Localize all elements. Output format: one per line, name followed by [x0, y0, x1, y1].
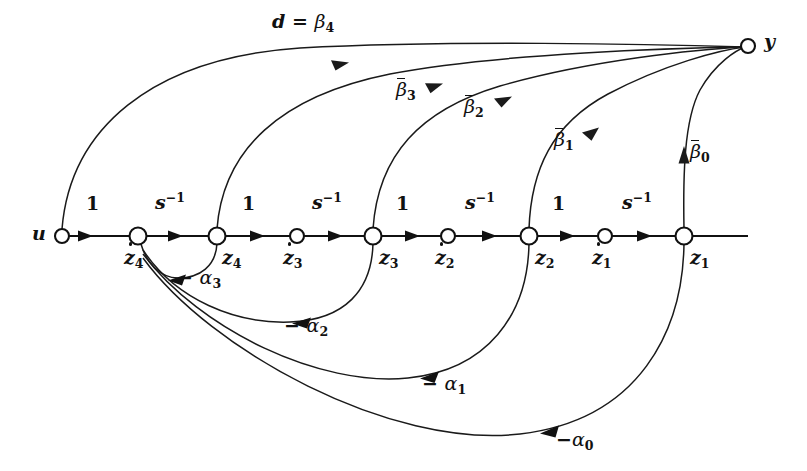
forward-path-chain — [62, 231, 748, 242]
arrow-zdot4-to-z4 — [168, 231, 183, 242]
arrow-zdot3-to-z3 — [328, 231, 343, 242]
node-label-zdot1: z1 — [592, 248, 612, 270]
arrow-z3-to-zdot2 — [405, 231, 420, 242]
node-label-z4: z4 — [222, 248, 242, 270]
node-zdot2[interactable] — [441, 229, 455, 243]
flow-graph-canvas — [0, 0, 807, 471]
node-label-z3: z3 — [379, 248, 399, 270]
node-label-zdot2: z2 — [435, 248, 455, 270]
arrow-beta1 — [582, 128, 599, 141]
edge-z1-to-y-beta0 — [684, 47, 745, 229]
gain-label-zdot4-z4: s−1 — [155, 192, 185, 212]
node-z2[interactable] — [521, 228, 538, 245]
edge-label-beta3: β3 — [396, 80, 416, 102]
gain-label-zdot3-z3: s−1 — [312, 192, 342, 212]
signal-flow-graph-diagram: u z4 z4 z3 z3 z2 z2 z1 z1 y 1 s−1 1 s−1 … — [0, 0, 807, 471]
edge-label-beta1: β1 — [554, 130, 574, 152]
node-z3[interactable] — [365, 228, 382, 245]
gain-label-u-zdot4: 1 — [86, 194, 99, 213]
node-label-z1: z1 — [690, 248, 710, 270]
edge-label-alpha2: − α2 — [284, 316, 328, 338]
edge-label-alpha0: −α0 — [556, 430, 594, 452]
node-u[interactable] — [55, 229, 69, 243]
arrow-zdot1-to-z1 — [637, 231, 652, 242]
node-z1[interactable] — [676, 228, 693, 245]
node-zdot3[interactable] — [290, 229, 304, 243]
gain-label-zdot2-z2: s−1 — [465, 192, 495, 212]
arrow-beta0 — [679, 146, 690, 164]
arrow-beta4 — [331, 60, 349, 70]
node-zdot4[interactable] — [130, 228, 147, 245]
gain-label-zdot1-z1: s−1 — [622, 192, 652, 212]
arrow-beta2 — [494, 97, 512, 108]
gain-label-z3-zdot2: 1 — [396, 194, 409, 213]
node-label-y: y — [764, 32, 775, 51]
gain-label-z2-zdot1: 1 — [552, 194, 565, 213]
arrow-z2-to-zdot1 — [560, 231, 575, 242]
edge-label-beta2: β2 — [464, 97, 484, 119]
edge-z1-to-zdot4-alpha0 — [143, 243, 684, 436]
node-label-zdot4: z4 — [124, 248, 144, 270]
edge-label-alpha3: − α3 — [177, 268, 221, 290]
node-label-z2: z2 — [535, 248, 555, 270]
edge-label-beta4: d = β4 — [272, 12, 334, 34]
node-label-zdot3: z3 — [283, 248, 303, 270]
node-y[interactable] — [741, 39, 755, 53]
edge-label-beta0: β0 — [690, 142, 710, 164]
arrow-z4-to-zdot3 — [250, 231, 265, 242]
node-zdot1[interactable] — [598, 229, 612, 243]
arrow-u-to-zdot4 — [78, 231, 93, 242]
arrow-zdot2-to-z2 — [482, 231, 497, 242]
arrow-beta3 — [425, 83, 443, 93]
gain-label-z4-zdot3: 1 — [242, 194, 255, 213]
node-label-u: u — [32, 224, 46, 243]
node-z4[interactable] — [209, 228, 226, 245]
edge-label-alpha1: − α1 — [422, 374, 466, 396]
feedback-edges — [141, 243, 684, 438]
